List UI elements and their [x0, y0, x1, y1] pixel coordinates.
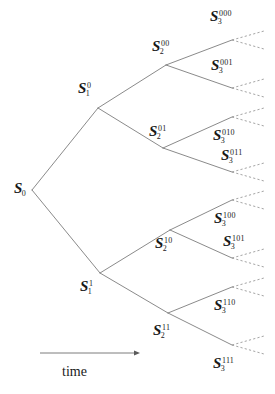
continuation-dash: [232, 287, 264, 296]
node-label-superscript: 1: [89, 279, 93, 288]
tree-edge: [32, 108, 98, 190]
tree-edge: [100, 273, 168, 313]
node-label-superscript: 01: [158, 124, 166, 133]
node-label-superscript: 10: [164, 236, 172, 245]
continuation-dash: [232, 108, 264, 117]
time-axis-arrow: [40, 350, 140, 355]
continuation-dash: [232, 117, 264, 126]
node-label-subscript: 3: [218, 17, 222, 26]
node-label-subscript: 3: [229, 156, 233, 165]
node-label-subscript: 3: [231, 242, 235, 251]
node-label-s3-000: S3000: [210, 9, 232, 26]
node-label-s2-10: S210: [155, 236, 172, 253]
tree-canvas: [0, 0, 275, 394]
tree-edges: [32, 40, 232, 345]
continuation-dash: [232, 191, 264, 200]
node-label-s3-001: S3001: [211, 58, 233, 75]
node-label-s0: S0: [14, 181, 26, 198]
node-label-superscript: 111: [222, 356, 234, 365]
node-label-s3-010: S3010: [213, 128, 235, 145]
node-label-s2-01: S201: [149, 124, 166, 141]
node-label-subscript: 3: [221, 136, 225, 145]
node-label-subscript: 3: [222, 306, 226, 315]
node-label-s1-1: S11: [80, 279, 93, 296]
node-label-s2-11: S211: [153, 323, 170, 340]
node-label-subscript: 3: [221, 364, 225, 373]
node-label-superscript: 00: [161, 39, 169, 48]
node-label-s3-011: S3011: [221, 148, 242, 165]
node-label-subscript: 0: [22, 189, 26, 198]
node-label-superscript: 11: [162, 323, 170, 332]
tree-edge: [168, 313, 232, 345]
continuation-dash: [232, 200, 264, 209]
node-label-subscript: 2: [157, 132, 161, 141]
continuation-dash: [232, 88, 264, 97]
tree-edge: [32, 190, 100, 273]
node-label-s3-100: S3100: [214, 211, 236, 228]
node-label-superscript: 100: [223, 211, 236, 220]
continuation-dash: [232, 336, 264, 345]
tree-continuation-dashes: [232, 31, 264, 354]
node-label-subscript: 2: [160, 47, 164, 56]
tree-edge: [98, 65, 166, 108]
continuation-dash: [232, 31, 264, 40]
node-label-superscript: 011: [230, 148, 242, 157]
node-label-s3-110: S3110: [214, 298, 235, 315]
node-label-s3-111: S3111: [213, 356, 234, 373]
time-axis-caption: time: [62, 365, 87, 379]
node-label-subscript: 1: [86, 89, 90, 98]
continuation-dash: [232, 258, 264, 267]
time-axis-arrowhead: [134, 350, 140, 355]
node-label-superscript: 001: [220, 58, 233, 67]
node-label-s3-101: S3101: [223, 234, 245, 251]
continuation-dash: [232, 79, 264, 88]
scenario-tree-figure: S0S10S11S200S201S210S211S3000S3001S3010S…: [0, 0, 275, 394]
continuation-dash: [232, 172, 264, 181]
node-label-superscript: 110: [223, 298, 235, 307]
continuation-dash: [232, 345, 264, 354]
node-label-subscript: 3: [219, 66, 223, 75]
node-label-subscript: 2: [161, 331, 165, 340]
node-label-superscript: 000: [219, 9, 232, 18]
node-label-superscript: 0: [87, 81, 91, 90]
node-label-subscript: 3: [222, 219, 226, 228]
continuation-dash: [232, 278, 264, 287]
node-label-s2-00: S200: [152, 39, 169, 56]
node-label-superscript: 010: [222, 128, 235, 137]
node-label-subscript: 2: [163, 244, 167, 253]
node-label-s1-0: S10: [78, 81, 91, 98]
node-label-subscript: 1: [88, 287, 92, 296]
node-label-superscript: 101: [232, 234, 245, 243]
continuation-dash: [232, 40, 264, 49]
